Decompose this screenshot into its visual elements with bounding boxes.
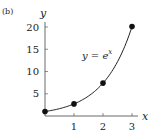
y-axis-label: y: [39, 7, 47, 20]
data-point: [71, 101, 77, 107]
y-tick-label: 15: [26, 44, 39, 55]
data-point: [42, 109, 48, 115]
y-tick-label: 5: [33, 88, 39, 99]
y-tick-label: 10: [26, 66, 39, 77]
data-point: [100, 80, 106, 86]
x-tick-label: 3: [129, 121, 135, 132]
equation-label: y = ex: [81, 48, 112, 61]
exponential-chart: (b) y x 5101520 123 y = ex: [0, 0, 165, 140]
x-tick-label: 1: [71, 121, 77, 132]
y-tick-label: 20: [26, 22, 39, 33]
data-point: [129, 24, 135, 30]
x-axis-label: x: [142, 110, 149, 123]
panel-label: (b): [2, 7, 13, 16]
x-tick-label: 2: [100, 121, 106, 132]
data-points: [42, 24, 135, 115]
exp-curve: [45, 27, 132, 112]
